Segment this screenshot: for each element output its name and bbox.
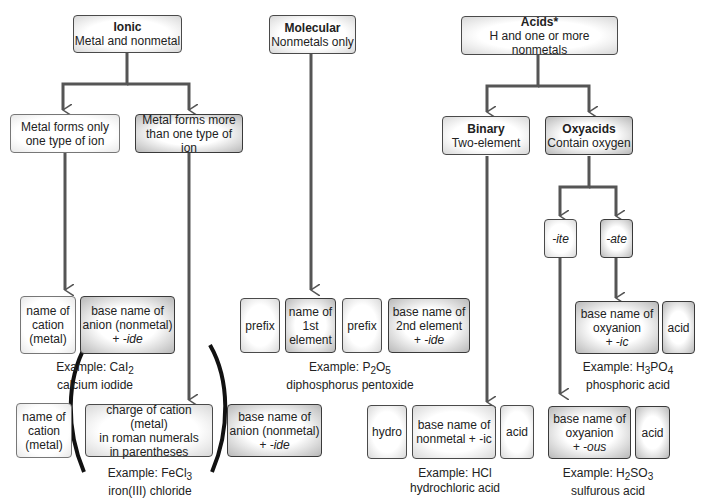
acids-subtitle: H and one or more nonmetals: [462, 29, 617, 57]
text-line: + -ide: [414, 333, 444, 347]
molecular-subtitle: Nonmetals only: [271, 35, 354, 49]
text-line: prefix: [347, 319, 376, 333]
text-line: in roman numerals: [99, 431, 198, 445]
text-line: oxyanion: [593, 321, 641, 335]
text-line: name of: [22, 410, 65, 424]
text-line: acid: [506, 425, 528, 439]
text-line: base name of: [393, 305, 466, 319]
prefix-box-2: prefix: [342, 298, 382, 353]
text-line: hydro: [372, 425, 402, 439]
example-name: hydrochloric acid: [410, 481, 500, 495]
subscript: 4: [668, 365, 674, 376]
metal-one-type-box: Metal forms only one type of ion: [10, 114, 120, 153]
text-line: base name of: [553, 412, 626, 426]
anion-base-name-box: base name of anion (nonmetal) + -ide: [80, 296, 175, 354]
text-line: element: [289, 333, 332, 347]
subscript: 3: [187, 471, 193, 482]
text-line: base name of: [238, 410, 311, 424]
anion-base-name-box-2: base name of anion (nonmetal) + -ide: [227, 404, 322, 457]
molecular-category-box: Molecular Nonmetals only: [269, 15, 356, 54]
text-line: nonmetal + -ic: [416, 432, 492, 446]
example-formula: Example: FeCl: [108, 466, 187, 480]
example-formula: Example: HCl: [418, 466, 491, 480]
example-formula: Example: CaI: [56, 360, 128, 374]
text-line: (metal): [29, 332, 66, 346]
molecular-example: Example: P2O5 diphosphorus pentoxide: [280, 360, 420, 393]
ionic-one-type-example: Example: CaI2 calcium iodide: [30, 360, 160, 393]
subscript: 3: [648, 471, 654, 482]
text-line: 2nd element: [396, 319, 462, 333]
text-line: base name of: [418, 418, 491, 432]
example-formula: O: [376, 360, 385, 374]
example-formula: PO: [650, 360, 667, 374]
oxyacids-subtitle: Contain oxygen: [547, 136, 630, 150]
first-element-box: name of 1st element: [285, 298, 336, 353]
example-formula: Example: H: [563, 466, 625, 480]
cation-name-box-2: name of cation (metal): [16, 403, 72, 458]
subscript: 2: [128, 365, 134, 376]
text-line: 1st: [302, 319, 318, 333]
text-line: + -ous: [573, 440, 607, 454]
text-line: (metal): [25, 438, 62, 452]
charge-roman-numeral-box: charge of cation (metal) in roman numera…: [85, 404, 213, 457]
text-line: in parentheses: [110, 445, 189, 459]
acid-word-box-ous: acid: [635, 406, 670, 459]
ionic-title: Ionic: [113, 20, 141, 34]
oxyanion-ic-box: base name of oxyanion + -ic: [575, 301, 659, 354]
metal-more-types-box: Metal forms more than one type of ion: [135, 114, 243, 153]
example-name: phosphoric acid: [586, 378, 670, 392]
text-line: base name of: [91, 304, 164, 318]
text-line: + -ic: [605, 335, 628, 349]
text-line: -ite: [552, 232, 569, 246]
acid-word-box-binary: acid: [500, 405, 534, 459]
ionic-subtitle: Metal and nonmetal: [75, 34, 180, 48]
example-name: diphosphorus pentoxide: [286, 378, 413, 392]
text-line: anion (nonmetal): [82, 318, 172, 332]
text-line: anion (nonmetal): [229, 424, 319, 438]
text-line: prefix: [245, 319, 274, 333]
example-name: iron(III) chloride: [108, 484, 191, 498]
text-line: charge of cation (metal): [86, 403, 212, 431]
metal-one-type-label: Metal forms only one type of ion: [11, 120, 119, 148]
binary-subtitle: Two-element: [452, 136, 521, 150]
oxyacids-box: Oxyacids Contain oxygen: [545, 116, 633, 155]
text-line: -ate: [606, 232, 627, 246]
text-line: acid: [641, 426, 663, 440]
acid-word-box-ic: acid: [662, 301, 695, 354]
second-element-box: base name of 2nd element + -ide: [388, 298, 470, 353]
example-name: sulfurous acid: [571, 484, 645, 498]
text-line: acid: [667, 321, 689, 335]
metal-more-types-label: Metal forms more than one type of ion: [136, 113, 242, 155]
hydro-prefix-box: hydro: [367, 405, 407, 459]
acids-category-box: Acids* H and one or more nonmetals: [461, 16, 618, 55]
ate-suffix-box: -ate: [600, 219, 633, 258]
text-line: oxyanion: [565, 426, 613, 440]
binary-title: Binary: [467, 122, 504, 136]
oxyacids-title: Oxyacids: [562, 122, 615, 136]
text-line: name of: [289, 305, 332, 319]
text-line: base name of: [581, 307, 654, 321]
binary-example: Example: HCl hydrochloric acid: [400, 466, 510, 496]
subscript: 5: [385, 365, 391, 376]
example-name: calcium iodide: [57, 378, 133, 392]
ionic-more-types-example: Example: FeCl3 iron(III) chloride: [90, 466, 210, 499]
example-formula: Example: P: [309, 360, 370, 374]
molecular-title: Molecular: [284, 21, 340, 35]
ic-example: Example: H3PO4 phosphoric acid: [568, 360, 688, 393]
acids-title: Acids*: [521, 15, 558, 29]
prefix-box-1: prefix: [240, 298, 280, 353]
example-formula: SO: [630, 466, 647, 480]
cation-name-box: name of cation (metal): [20, 296, 76, 354]
text-line: cation: [32, 318, 64, 332]
text-line: cation: [28, 424, 60, 438]
ionic-category-box: Ionic Metal and nonmetal: [73, 15, 182, 53]
nonmetal-base-name-box: base name of nonmetal + -ic: [412, 405, 496, 459]
ous-example: Example: H2SO3 sulfurous acid: [548, 466, 668, 499]
ite-suffix-box: -ite: [544, 219, 577, 258]
oxyanion-ous-box: base name of oxyanion + -ous: [548, 406, 631, 459]
text-line: + -ide: [112, 332, 142, 346]
text-line: name of: [26, 304, 69, 318]
example-formula: Example: H: [583, 360, 645, 374]
binary-acid-box: Binary Two-element: [442, 116, 530, 155]
text-line: + -ide: [259, 438, 289, 452]
